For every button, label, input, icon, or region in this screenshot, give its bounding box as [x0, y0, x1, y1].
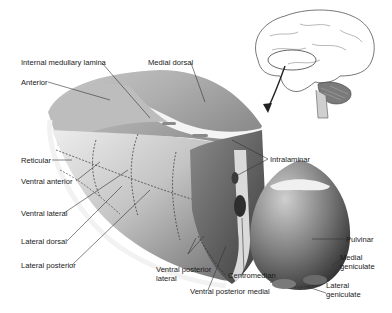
- label-medial-geniculate-line2: geniculate: [340, 262, 375, 271]
- label-medial-dorsal: Medial dorsal: [148, 58, 193, 67]
- label-lateral-posterior: Lateral posterior: [21, 261, 76, 270]
- label-ventral-posterior-lateral-line2: lateral: [156, 274, 177, 283]
- label-anterior: Anterior: [21, 78, 48, 87]
- label-pulvinar: Pulvinar: [346, 235, 373, 244]
- label-reticular: Reticular: [21, 156, 51, 165]
- label-ventral-anterior: Ventral anterior: [21, 177, 73, 186]
- label-medial-geniculate-line1: Medial: [340, 253, 362, 262]
- label-lateral-geniculate-line2: geniculate: [326, 290, 361, 299]
- label-ventral-posterior-medial: Ventral posterior medial: [190, 287, 270, 296]
- label-lateral-geniculate-line1: Lateral: [326, 281, 349, 290]
- brain-inset-icon: [256, 10, 375, 118]
- thalamus-diagram: Internal medullary lamina Medial dorsal …: [0, 0, 392, 313]
- thalamus-model: [48, 70, 266, 286]
- label-lateral-dorsal: Lateral dorsal: [21, 237, 67, 246]
- label-internal-medullary-lamina: Internal medullary lamina: [21, 58, 106, 67]
- label-ventral-posterior-lateral-line1: Ventral posterior: [156, 265, 211, 274]
- label-intralaminar: Intralaminar: [270, 155, 310, 164]
- label-ventral-lateral: Ventral lateral: [21, 209, 67, 218]
- label-centromedian: Centromedian: [228, 271, 276, 280]
